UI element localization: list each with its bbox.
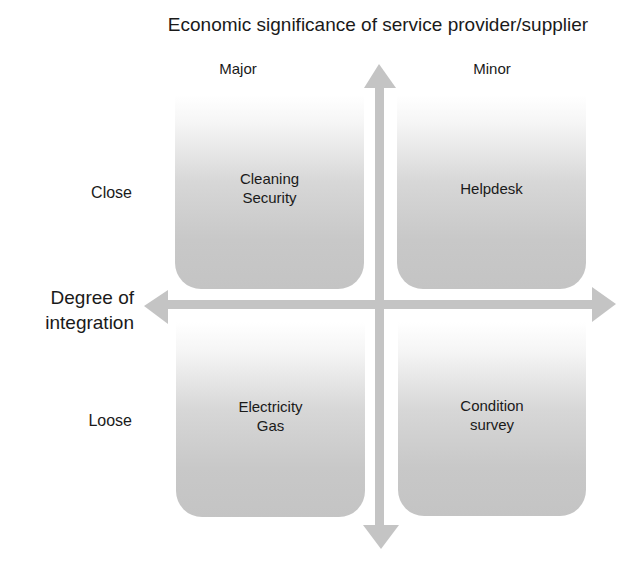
arrow-left-head-icon [144, 290, 168, 324]
axes-arrows [0, 0, 641, 570]
arrow-down-head-icon [363, 525, 399, 549]
arrow-right-head-icon [592, 287, 616, 322]
arrow-up-head-icon [364, 64, 396, 88]
